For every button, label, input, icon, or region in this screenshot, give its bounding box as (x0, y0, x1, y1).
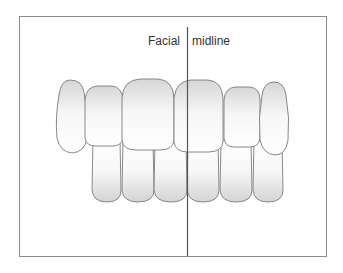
upper-tooth-1 (56, 80, 87, 153)
lower-tooth-1 (92, 140, 121, 202)
label-midline: midline (192, 34, 230, 48)
upper-tooth-3 (122, 79, 174, 150)
label-facial: Facial (148, 34, 180, 48)
upper-teeth (56, 79, 288, 155)
upper-tooth-2 (85, 86, 123, 146)
lower-tooth-5 (220, 140, 252, 202)
upper-tooth-4 (174, 80, 223, 152)
upper-tooth-6 (259, 82, 288, 155)
upper-tooth-5 (224, 87, 260, 147)
